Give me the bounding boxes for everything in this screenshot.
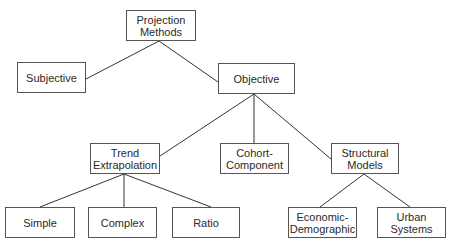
edge-trend-to-ratio <box>124 174 211 207</box>
edge-projection-to-objective <box>159 41 218 82</box>
edge-projection-to-subjective <box>86 41 159 79</box>
node-label: ProjectionMethods <box>137 14 186 38</box>
node-urban: UrbanSystems <box>377 207 446 238</box>
node-label-line: Methods <box>137 26 186 38</box>
node-label-line: Economic- <box>290 211 355 223</box>
node-label-line: Projection <box>137 14 186 26</box>
node-label-line: Cohort- <box>226 147 283 159</box>
node-label-line: Demographic <box>290 223 355 235</box>
node-label-line: Complex <box>101 217 144 229</box>
node-label-line: Component <box>226 159 283 171</box>
node-label-line: Urban <box>390 211 432 223</box>
node-label-line: Objective <box>234 73 280 85</box>
node-ratio: Ratio <box>172 207 240 238</box>
node-objective: Objective <box>218 63 295 94</box>
node-label-line: Models <box>341 159 388 171</box>
node-simple: Simple <box>5 207 75 238</box>
node-projection: ProjectionMethods <box>126 10 196 41</box>
edge-structural-to-urban <box>364 174 410 207</box>
node-cohort: Cohort-Component <box>220 143 289 174</box>
node-label: Complex <box>101 217 144 229</box>
node-label: Objective <box>234 73 280 85</box>
node-complex: Complex <box>88 207 157 238</box>
node-econdemo: Economic-Demographic <box>288 207 357 238</box>
node-label-line: Structural <box>341 147 388 159</box>
node-label: Cohort-Component <box>226 147 283 171</box>
node-label-line: Systems <box>390 223 432 235</box>
node-label-line: Extrapolation <box>93 159 157 171</box>
node-label: Simple <box>23 217 57 229</box>
node-label: StructuralModels <box>341 147 388 171</box>
node-label: UrbanSystems <box>390 211 432 235</box>
edge-trend-to-simple <box>40 174 124 207</box>
node-label-line: Simple <box>23 217 57 229</box>
node-label: Ratio <box>193 217 219 229</box>
node-label-line: Trend <box>93 147 157 159</box>
node-label: TrendExtrapolation <box>93 147 157 171</box>
node-label: Subjective <box>26 72 77 84</box>
edge-structural-to-econdemo <box>320 174 364 207</box>
node-trend: TrendExtrapolation <box>90 143 160 174</box>
node-label-line: Subjective <box>26 72 77 84</box>
node-label: Economic-Demographic <box>290 211 355 235</box>
node-label-line: Ratio <box>193 217 219 229</box>
node-subjective: Subjective <box>17 62 86 93</box>
node-structural: StructuralModels <box>331 143 399 174</box>
